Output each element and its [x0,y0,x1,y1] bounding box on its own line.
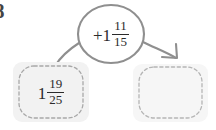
worksheet-problem: 8 + 1 11 15 1 19 25 [0,0,216,130]
operator-fraction: 11 15 [112,19,129,49]
operator-whole-number: 1 [103,27,113,44]
input-denominator: 25 [48,93,63,107]
operator-sign: + [93,27,103,44]
input-fraction: 19 25 [47,77,64,107]
operator-numerator: 11 [113,19,128,33]
bubble-to-answer-arrow-shaft [143,42,176,58]
input-whole-number: 1 [38,85,48,102]
input-value-expression: 1 19 25 [20,75,82,111]
operator-denominator: 15 [113,35,128,49]
input-numerator: 19 [48,77,63,91]
operator-expression: + 1 11 15 [82,18,140,52]
answer-value-expression[interactable] [142,75,200,111]
